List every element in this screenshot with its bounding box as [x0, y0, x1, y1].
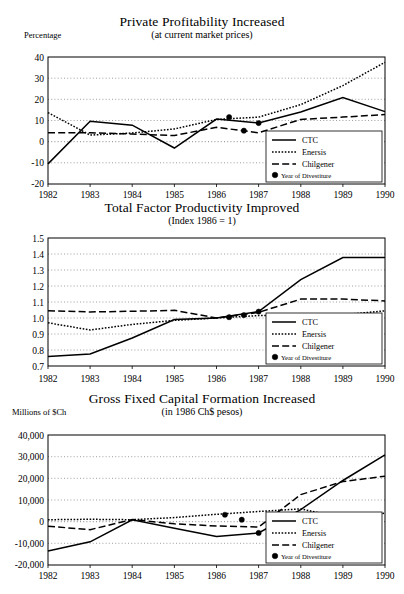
svg-text:1989: 1989: [333, 190, 352, 200]
svg-text:1.0: 1.0: [32, 314, 44, 324]
svg-text:1987: 1987: [249, 190, 268, 200]
x-axis-labels-3: 1982 1983 1984 1985 1986 1987 1988 1989 …: [0, 569, 404, 583]
plot-area: 1.5 1.4 1.3 1.2 1.1 1.0 0.9 0.8 0.7: [0, 226, 404, 372]
svg-text:1987: 1987: [249, 374, 268, 384]
y-tick-labels: 40 30 20 10 0 -10 -20: [31, 53, 44, 189]
legend-label-enersis: Enersis: [302, 529, 326, 538]
svg-text:1988: 1988: [291, 571, 310, 581]
svg-text:1982: 1982: [39, 190, 58, 200]
divestiture-marker: [256, 120, 261, 125]
chart-svg-2: 1.5 1.4 1.3 1.2 1.1 1.0 0.9 0.8 0.7: [0, 226, 404, 372]
divestiture-marker: [256, 530, 261, 535]
legend-label-divestiture: Year of Divestiture: [281, 172, 331, 179]
legend-swatch-divestiture: [272, 172, 278, 178]
svg-text:0: 0: [39, 137, 44, 147]
chart-subtitle: (Index 1986 = 1): [0, 215, 404, 226]
legend-label-ctc: CTC: [302, 517, 318, 526]
chart-panel-gross-fixed-capital-formation: Gross Fixed Capital Formation Increased …: [0, 391, 404, 583]
svg-text:1989: 1989: [333, 571, 352, 581]
y-tick-labels: 40,000 30,000 20,000 10,000 0 -10,000 -2…: [15, 431, 45, 570]
svg-text:1985: 1985: [165, 190, 184, 200]
divestiture-marker: [239, 517, 244, 522]
svg-text:0.7: 0.7: [32, 362, 44, 372]
svg-text:-20: -20: [31, 179, 44, 188]
svg-text:20: 20: [35, 95, 45, 105]
svg-text:1.4: 1.4: [32, 250, 44, 260]
svg-text:1984: 1984: [123, 374, 142, 384]
chart-title: Total Factor Productivity Improved: [0, 200, 404, 215]
chart-svg-3: 40,000 30,000 20,000 10,000 0 -10,000 -2…: [0, 417, 404, 569]
figure-page: Private Profitability Increased (at curr…: [0, 0, 404, 594]
svg-text:1982: 1982: [39, 571, 58, 581]
svg-text:10,000: 10,000: [18, 496, 44, 506]
legend-swatch-divestiture: [272, 553, 278, 559]
legend-label-enersis: Enersis: [302, 148, 326, 157]
legend-label-chilgener: Chilgener: [302, 342, 335, 351]
svg-text:1.5: 1.5: [32, 234, 44, 244]
svg-text:1982: 1982: [39, 374, 58, 384]
svg-text:1984: 1984: [123, 190, 142, 200]
legend-label-enersis: Enersis: [302, 330, 326, 339]
divestiture-marker: [227, 115, 232, 120]
y-tick-labels: 1.5 1.4 1.3 1.2 1.1 1.0 0.9 0.8 0.7: [32, 234, 44, 372]
svg-text:1983: 1983: [81, 571, 100, 581]
svg-text:30,000: 30,000: [18, 452, 44, 462]
chart-svg-1: 40 30 20 10 0 -10 -20: [0, 40, 404, 188]
legend: CTC Enersis Chilgener Year of Divestitur…: [266, 313, 382, 364]
y-axis-unit-label: Percentage: [24, 30, 61, 40]
svg-text:-20,000: -20,000: [15, 560, 45, 569]
svg-text:1988: 1988: [291, 190, 310, 200]
svg-text:40,000: 40,000: [18, 431, 44, 441]
series-line-enersis: [48, 62, 385, 135]
svg-text:1985: 1985: [165, 374, 184, 384]
chart-panel-private-profitability: Private Profitability Increased (at curr…: [0, 14, 404, 202]
chart-title: Private Profitability Increased: [0, 14, 404, 29]
svg-text:20,000: 20,000: [18, 474, 44, 484]
divestiture-marker: [241, 128, 246, 133]
svg-text:1986: 1986: [207, 190, 226, 200]
divestiture-marker: [241, 313, 246, 318]
svg-text:-10,000: -10,000: [15, 539, 45, 549]
svg-text:1985: 1985: [165, 571, 184, 581]
svg-text:40: 40: [35, 53, 45, 63]
divestiture-marker: [227, 315, 232, 320]
svg-text:1.2: 1.2: [32, 282, 44, 292]
legend: CTC Enersis Chilgener Year of Divestitur…: [266, 131, 382, 182]
legend-label-chilgener: Chilgener: [302, 541, 335, 550]
svg-text:10: 10: [35, 116, 45, 126]
svg-text:1990: 1990: [376, 571, 395, 581]
plot-area: 40 30 20 10 0 -10 -20: [0, 40, 404, 188]
svg-text:1.1: 1.1: [32, 298, 44, 308]
x-axis-labels-2: 1982 1983 1984 1985 1986 1987 1988 1989 …: [0, 372, 404, 386]
svg-text:1990: 1990: [376, 190, 395, 200]
divestiture-marker: [256, 309, 261, 314]
svg-text:1987: 1987: [249, 571, 268, 581]
svg-text:1984: 1984: [123, 571, 142, 581]
legend-label-divestiture: Year of Divestiture: [281, 354, 331, 361]
legend: CTC Enersis Chilgener Year of Divestitur…: [266, 512, 382, 563]
svg-text:1983: 1983: [81, 190, 100, 200]
svg-text:0.9: 0.9: [32, 330, 44, 340]
svg-text:0: 0: [39, 517, 44, 527]
svg-text:1988: 1988: [291, 374, 310, 384]
plot-area: 40,000 30,000 20,000 10,000 0 -10,000 -2…: [0, 417, 404, 569]
legend-swatch-divestiture: [272, 354, 278, 360]
svg-text:1990: 1990: [376, 374, 395, 384]
legend-label-ctc: CTC: [302, 136, 318, 145]
svg-text:1.3: 1.3: [32, 266, 44, 276]
chart-title: Gross Fixed Capital Formation Increased: [0, 391, 404, 406]
y-axis-unit-label: Millions of $Ch: [12, 407, 66, 417]
divestiture-marker: [222, 512, 227, 517]
svg-text:1989: 1989: [333, 374, 352, 384]
legend-label-ctc: CTC: [302, 318, 318, 327]
svg-text:1983: 1983: [81, 374, 100, 384]
legend-label-divestiture: Year of Divestiture: [281, 553, 331, 560]
svg-text:1986: 1986: [207, 571, 226, 581]
chart-panel-total-factor-productivity: Total Factor Productivity Improved (Inde…: [0, 200, 404, 386]
svg-text:30: 30: [35, 74, 45, 84]
legend-label-chilgener: Chilgener: [302, 160, 335, 169]
divestiture-markers: [222, 512, 261, 535]
svg-text:-10: -10: [31, 158, 44, 168]
svg-text:1986: 1986: [207, 374, 226, 384]
svg-text:0.8: 0.8: [32, 346, 44, 356]
